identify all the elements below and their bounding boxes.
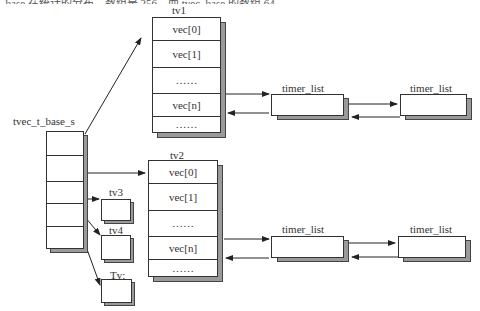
timer-list-node bbox=[271, 236, 344, 258]
timer-list-node bbox=[271, 94, 344, 116]
base-slot-1 bbox=[47, 156, 83, 182]
base-label: tvec_t_base_s bbox=[13, 115, 75, 127]
tv1-label: tv1 bbox=[172, 4, 186, 16]
timer-list-node bbox=[400, 94, 467, 116]
tv1-cell: …… bbox=[153, 68, 220, 94]
timer-list-label: timer_list bbox=[282, 223, 324, 235]
timer-list-label: timer_list bbox=[282, 82, 324, 94]
tv4-box bbox=[101, 235, 131, 260]
tv3-box bbox=[101, 199, 131, 221]
tv5-box bbox=[101, 279, 132, 303]
tv1-vector-array: vec[0] vec[1] …… vec[n] …… bbox=[152, 17, 221, 133]
tv2-cell: vec[0] bbox=[149, 161, 217, 184]
timer-list-node bbox=[398, 236, 466, 258]
tv1-cell: vec[1] bbox=[153, 41, 220, 68]
tv2-cell: …… bbox=[149, 211, 217, 237]
tv2-cell: vec[1] bbox=[149, 184, 217, 211]
tv1-cell: vec[n] bbox=[153, 94, 220, 117]
tv2-cell: vec[n] bbox=[149, 237, 217, 260]
tv3-label: tv3 bbox=[109, 186, 123, 198]
cropped-caption-text: _base 在统计的分布，数组是 256，而 tvec_base 的数组 64 bbox=[0, 0, 480, 4]
tv1-cell: vec[0] bbox=[153, 18, 220, 41]
base-slot-4 bbox=[47, 227, 83, 249]
tv1-cell: …… bbox=[153, 117, 220, 133]
base-slot-0 bbox=[47, 132, 83, 156]
base-slot-2 bbox=[47, 182, 83, 204]
timer-list-label: timer_list bbox=[410, 223, 452, 235]
tv2-vector-array: vec[0] vec[1] …… vec[n] …… bbox=[148, 160, 218, 277]
tv2-cell: …… bbox=[149, 260, 217, 277]
timer-list-label: timer_list bbox=[410, 82, 452, 94]
tvec-base-array bbox=[46, 131, 84, 249]
base-slot-3 bbox=[47, 204, 83, 227]
